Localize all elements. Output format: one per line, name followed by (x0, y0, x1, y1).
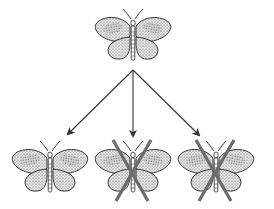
inheritance-diagram (0, 0, 274, 209)
offspring-butterfly-1 (12, 141, 87, 192)
arrow-right (133, 70, 199, 135)
arrow-left (68, 70, 133, 134)
offspring-butterfly-3 (178, 141, 253, 192)
offspring-butterfly-2 (95, 141, 170, 192)
arrows (68, 70, 199, 136)
parent-butterfly (95, 9, 170, 60)
